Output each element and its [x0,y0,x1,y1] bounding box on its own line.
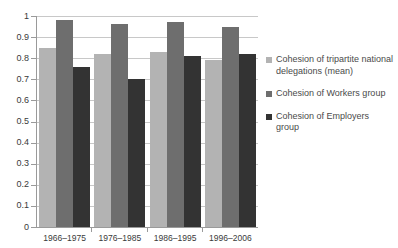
x-axis-tick-label: 1986–1995 [148,233,203,243]
y-axis-tick-label: 0.7 [0,75,29,84]
bar [222,27,239,227]
y-axis-tick-label-text: 0.6 [1,96,29,105]
y-axis-tick-label-text: 0 [1,223,29,232]
y-axis-tick-label: 0.2 [0,180,29,189]
x-axis-ticks [37,227,258,232]
y-axis-tick [31,79,36,80]
legend-swatch-icon [266,57,272,63]
y-axis-tick-label: 1 [0,12,29,21]
x-axis-tick [92,227,147,232]
y-axis-tick [31,16,36,17]
y-axis-tick [31,58,36,59]
bar [239,54,256,227]
legend-label: Cohesion of Workers group [276,88,385,100]
y-axis-tick [31,164,36,165]
y-axis-tick [31,185,36,186]
x-axis-labels: 1966–19751976–19851986–19951996–2006 [37,233,258,243]
bar [39,48,56,227]
bar [184,56,201,227]
legend-item[interactable]: Cohesion of Employers group [266,111,398,134]
y-axis-tick-label: 0.4 [0,138,29,147]
legend-item[interactable]: Cohesion of tripartite national delegati… [266,54,398,77]
bar [94,54,111,227]
y-axis-tick [31,37,36,38]
y-axis-tick-label: 0.8 [0,54,29,63]
bar-chart: 10.90.80.70.60.50.40.30.20.10 1966–19751… [0,0,398,248]
x-axis-tick [37,227,92,232]
x-axis-tick-label: 1996–2006 [203,233,258,243]
x-axis-tick-label: 1966–1975 [37,233,92,243]
y-axis-tick [31,206,36,207]
bar-group [203,16,258,227]
y-axis-tick-label-text: 0.2 [1,180,29,189]
y-axis-tick-label-text: 0.1 [1,201,29,210]
legend: Cohesion of tripartite national delegati… [266,54,398,145]
y-axis-tick-label: 0.1 [0,201,29,210]
bar-groups [37,16,258,227]
bar [167,22,184,227]
y-axis-tick-label-text: 0.3 [1,159,29,168]
y-axis-tick-label-text: 1 [1,12,29,21]
bar [205,60,222,227]
y-axis-tick-label: 0 [0,223,29,232]
legend-label: Cohesion of Employers group [276,111,394,134]
bar [128,79,145,227]
bar-group [37,16,92,227]
y-axis-tick-label-text: 0.7 [1,75,29,84]
y-axis-tick-label-text: 0.8 [1,54,29,63]
bar [111,24,128,227]
legend-item[interactable]: Cohesion of Workers group [266,88,398,100]
bar [150,52,167,227]
y-axis-tick-label: 0.5 [0,117,29,126]
bar-group [92,16,147,227]
bar [73,67,90,227]
y-axis-tick-label-text: 0.9 [1,33,29,42]
legend-swatch-icon [266,91,272,97]
bar-group [148,16,203,227]
y-axis-tick-label-text: 0.4 [1,138,29,147]
x-axis-tick [203,227,258,232]
y-axis-tick [31,100,36,101]
y-axis-tick-label-text: 0.5 [1,117,29,126]
y-axis-tick-label: 0.9 [0,33,29,42]
legend-label: Cohesion of tripartite national delegati… [276,54,394,77]
x-axis-tick-label: 1976–1985 [92,233,147,243]
y-axis-tick-label: 0.3 [0,159,29,168]
x-axis-tick [148,227,203,232]
y-axis-tick [31,122,36,123]
bar [56,20,73,227]
y-axis-tick [31,143,36,144]
y-axis-tick-label: 0.6 [0,96,29,105]
legend-swatch-icon [266,114,272,120]
plot-wrapper: 10.90.80.70.60.50.40.30.20.10 1966–19751… [0,0,262,248]
